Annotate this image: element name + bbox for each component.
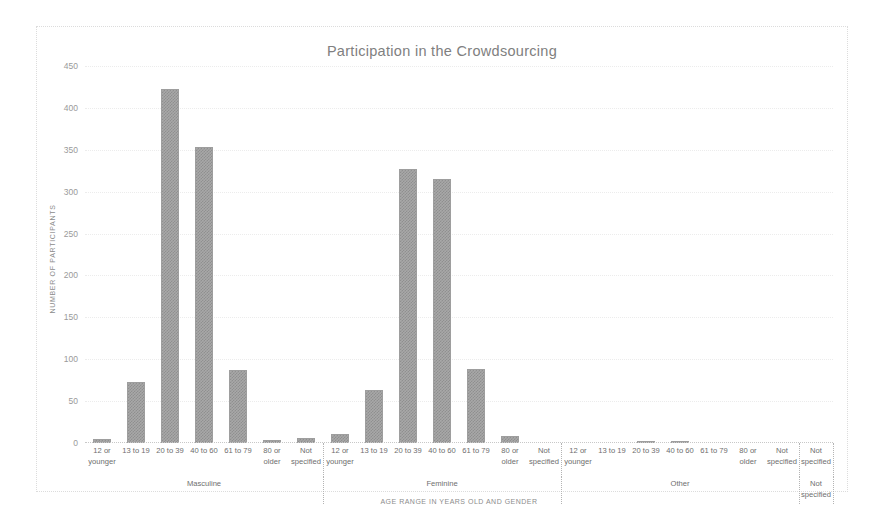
group-separator [799,443,800,475]
x-tick-label: 20 to 39 [629,445,663,456]
plot-area: 050100150200250300350400450 [85,66,833,443]
x-tick-label: 61 to 79 [459,445,493,456]
x-tick-label: 40 to 60 [425,445,459,456]
x-tick-label: Not specified [289,445,323,467]
chart-frame: Participation in the Crowdsourcing NUMBE… [36,26,848,492]
x-tick-label: 13 to 19 [595,445,629,456]
x-tick-label: 20 to 39 [153,445,187,456]
y-tick-label: 50 [69,396,78,406]
group-separator [323,443,324,475]
y-tick-label: 350 [64,145,78,155]
y-axis-title: NUMBER OF PARTICIPANTS [49,204,56,313]
gridline [85,108,833,109]
x-category-labels: 12 or younger13 to 1920 to 3940 to 6061 … [85,443,833,475]
bar [229,370,247,443]
x-tick-label: 61 to 79 [697,445,731,456]
group-separator [561,443,562,475]
bar [399,169,417,443]
y-tick-label: 300 [64,187,78,197]
bar [365,390,383,443]
gridline [85,66,833,67]
chart-title: Participation in the Crowdsourcing [37,43,847,59]
x-tick-label: 80 or older [731,445,765,467]
group-label: Other [561,478,799,489]
x-tick-label: Not specified [799,445,833,467]
x-tick-label: 40 to 60 [663,445,697,456]
x-tick-label: 40 to 60 [187,445,221,456]
bar [195,147,213,443]
x-tick-label: 80 or older [255,445,289,467]
y-tick-label: 450 [64,61,78,71]
x-tick-label: 12 or younger [561,445,595,467]
y-tick-label: 100 [64,354,78,364]
y-tick-label: 150 [64,312,78,322]
x-tick-label: Not specified [527,445,561,467]
y-tick-label: 250 [64,229,78,239]
group-separator [833,476,834,504]
x-tick-label: Not specified [765,445,799,467]
x-axis-title: AGE RANGE IN YEARS OLD AND GENDER [85,498,833,505]
bar [433,179,451,443]
y-tick-label: 0 [73,438,78,448]
y-tick-label: 200 [64,270,78,280]
group-label: Feminine [323,478,561,489]
x-tick-label: 13 to 19 [119,445,153,456]
x-tick-label: 13 to 19 [357,445,391,456]
x-tick-label: 12 or younger [323,445,357,467]
x-tick-label: 61 to 79 [221,445,255,456]
y-tick-label: 400 [64,103,78,113]
bar [467,369,485,443]
group-separator [833,443,834,475]
group-label: Masculine [85,478,323,489]
bar [127,382,145,443]
x-tick-label: 80 or older [493,445,527,467]
x-tick-label: 20 to 39 [391,445,425,456]
bar [161,89,179,443]
group-label: Not specified [799,478,833,500]
x-tick-label: 12 or younger [85,445,119,467]
